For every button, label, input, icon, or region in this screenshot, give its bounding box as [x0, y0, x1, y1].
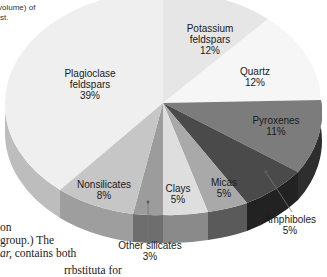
label-percent: 5% — [211, 188, 237, 199]
label-text: Potassium — [187, 23, 234, 34]
label-pyroxenes: Pyroxenes 11% — [252, 115, 299, 137]
label-percent: 8% — [77, 190, 131, 201]
body-text-line1: on — [0, 221, 12, 234]
label-text: feldspars — [187, 34, 234, 45]
label-clays: Clays 5% — [165, 183, 190, 205]
label-percent: 11% — [252, 126, 299, 137]
body-text-italic: ar, — [0, 247, 12, 259]
label-text: feldspars — [64, 79, 115, 90]
leader-dot-other-silicates — [147, 201, 149, 203]
label-other-silicates: Other silicates 3% — [118, 240, 181, 262]
body-text-line4: rrbstituta for — [64, 264, 122, 277]
label-percent: 12% — [187, 45, 234, 56]
body-text-line3: ar, contains both — [0, 247, 76, 260]
label-plagioclase-feldspars: Plagioclase feldspars 39% — [64, 68, 115, 101]
label-text: Pyroxenes — [252, 115, 299, 126]
body-text-line2: group.) The — [0, 234, 54, 247]
label-text: Plagioclase — [64, 68, 115, 79]
leader-dot-amphiboles — [265, 171, 267, 173]
label-potassium-feldspars: Potassium feldspars 12% — [187, 23, 234, 56]
label-text: Clays — [165, 183, 190, 194]
pie-top-faces — [5, 0, 322, 215]
body-text-rest: contains both — [12, 247, 77, 259]
label-percent: 3% — [118, 251, 181, 262]
label-text: Amphiboles — [264, 214, 316, 225]
caption-fragment-line2: st. — [0, 13, 8, 23]
label-nonsilicates: Nonsilicates 8% — [77, 179, 131, 201]
label-percent: 12% — [240, 77, 270, 88]
side-clays — [163, 212, 208, 243]
label-amphiboles: Amphiboles 5% — [264, 214, 316, 236]
label-text: Other silicates — [118, 240, 181, 251]
label-text: Quartz — [240, 66, 270, 77]
label-percent: 5% — [165, 194, 190, 205]
caption-fragment-line1: volume) of — [0, 3, 35, 13]
label-quartz: Quartz 12% — [240, 66, 270, 88]
label-text: Nonsilicates — [77, 179, 131, 190]
label-percent: 5% — [264, 225, 316, 236]
label-text: Micas — [211, 177, 237, 188]
label-micas: Micas 5% — [211, 177, 237, 199]
label-percent: 39% — [64, 90, 115, 101]
